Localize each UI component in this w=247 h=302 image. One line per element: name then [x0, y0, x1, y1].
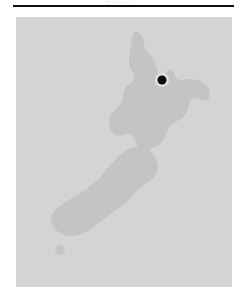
sea-background	[16, 17, 232, 287]
new-zealand-map-svg	[16, 17, 232, 287]
figure-page: Figure	[0, 0, 247, 302]
map-figure-panel	[16, 17, 232, 287]
location-marker-dot	[158, 76, 167, 85]
clipped-caption-text: Figure	[60, 0, 180, 3]
horizontal-rule	[13, 5, 234, 7]
